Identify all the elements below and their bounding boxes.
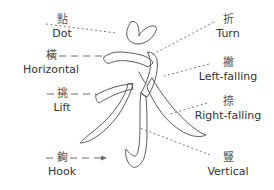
stroke-label-text-right-falling: Right-falling xyxy=(180,109,274,122)
stroke-label-hanzi-right-falling: 捺 xyxy=(180,96,274,108)
stroke-label-hook: 鉤Hook xyxy=(14,152,110,178)
stroke-label-hanzi-hook: 鉤 xyxy=(14,152,110,164)
stroke-label-horizontal: 橫Horizontal xyxy=(3,50,99,76)
stroke-label-hanzi-lift: 挑 xyxy=(14,88,110,100)
stroke-label-hanzi-dot: 點 xyxy=(14,14,110,26)
stroke-label-hanzi-horizontal: 橫 xyxy=(3,50,99,62)
stroke-label-right-falling: 捺Right-falling xyxy=(180,96,274,122)
stroke-label-text-horizontal: Horizontal xyxy=(3,63,99,76)
stroke-label-turn: 折Turn xyxy=(180,14,274,40)
stroke-label-lift: 挑Lift xyxy=(14,88,110,114)
stroke-label-hanzi-left-falling: 撇 xyxy=(180,57,274,69)
stroke-label-text-hook: Hook xyxy=(14,165,110,178)
stroke-label-text-dot: Dot xyxy=(14,27,110,40)
calligraphy-stroke-diagram: 點Dot橫Horizontal挑Lift鉤Hook折Turn撇Left-fall… xyxy=(0,0,274,190)
stroke-outline-dot xyxy=(127,21,157,44)
stroke-label-left-falling: 撇Left-falling xyxy=(180,57,274,83)
stroke-label-hanzi-turn: 折 xyxy=(180,14,274,26)
stroke-outline-horizontal xyxy=(104,52,153,67)
stroke-outline-vertical xyxy=(126,93,147,167)
stroke-label-text-left-falling: Left-falling xyxy=(180,70,274,83)
stroke-label-vertical: 豎Vertical xyxy=(180,152,274,178)
stroke-label-dot: 點Dot xyxy=(14,14,110,40)
stroke-label-text-vertical: Vertical xyxy=(180,165,274,178)
stroke-outline-junction-detail xyxy=(139,72,146,84)
stroke-label-text-lift: Lift xyxy=(14,101,110,114)
stroke-label-text-turn: Turn xyxy=(180,27,274,40)
stroke-label-hanzi-vertical: 豎 xyxy=(180,152,274,164)
